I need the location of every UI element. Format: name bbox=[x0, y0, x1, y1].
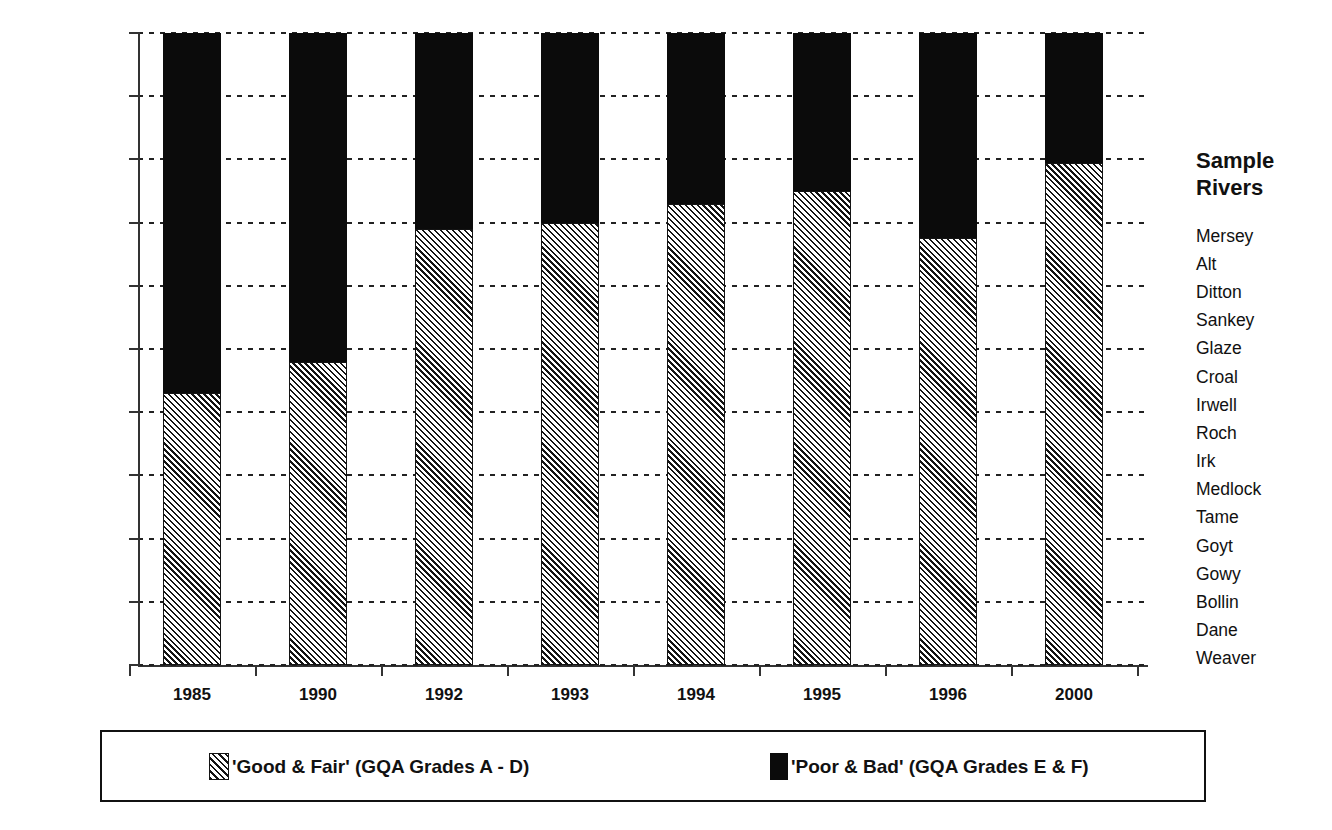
bar-segment-good-and-fair bbox=[163, 393, 221, 665]
sidebar-title: Sample Rivers bbox=[1196, 148, 1326, 202]
bar-segment-poor-and-bad bbox=[163, 33, 221, 393]
x-axis-label-1994: 1994 bbox=[641, 685, 751, 705]
x-axis-tick bbox=[381, 665, 383, 676]
river-list-item: Sankey bbox=[1196, 306, 1326, 334]
river-list-item: Medlock bbox=[1196, 475, 1326, 503]
bar-1994 bbox=[667, 33, 725, 665]
legend-label-poor-and-bad: 'Poor & Bad' (GQA Grades E & F) bbox=[791, 756, 1089, 778]
x-axis-label-2000: 2000 bbox=[1019, 685, 1129, 705]
river-list-item: Goyt bbox=[1196, 532, 1326, 560]
legend-item-poor-and-bad: 'Poor & Bad' (GQA Grades E & F) bbox=[770, 753, 1089, 780]
bar-segment-good-and-fair bbox=[667, 204, 725, 665]
bar-segment-poor-and-bad bbox=[793, 33, 851, 191]
river-list-item: Glaze bbox=[1196, 334, 1326, 362]
x-axis-tick bbox=[255, 665, 257, 676]
x-axis-tick bbox=[1011, 665, 1013, 676]
x-axis-tick bbox=[507, 665, 509, 676]
x-axis-tick bbox=[129, 665, 131, 676]
y-axis-tick bbox=[129, 411, 140, 413]
y-axis-tick bbox=[129, 285, 140, 287]
river-list-item: Dane bbox=[1196, 616, 1326, 644]
y-axis-tick bbox=[129, 32, 140, 34]
bar-1985 bbox=[163, 33, 221, 665]
legend-item-good-and-fair: 'Good & Fair' (GQA Grades A - D) bbox=[209, 753, 529, 780]
bar-segment-poor-and-bad bbox=[541, 33, 599, 223]
scanned-chart-page: % of River Length in Category 100%90%80%… bbox=[0, 0, 1332, 830]
y-axis-tick bbox=[129, 222, 140, 224]
bar-2000 bbox=[1045, 33, 1103, 665]
river-list-item: Mersey bbox=[1196, 222, 1326, 250]
bar-1995 bbox=[793, 33, 851, 665]
solid-black-swatch-icon bbox=[770, 753, 788, 780]
river-list-item: Irk bbox=[1196, 447, 1326, 475]
river-list-item: Irwell bbox=[1196, 391, 1326, 419]
hatch-swatch-icon bbox=[209, 753, 229, 780]
chart-plot-area: % of River Length in Category 100%90%80%… bbox=[138, 33, 1148, 665]
x-axis-label-1992: 1992 bbox=[389, 685, 499, 705]
bar-segment-poor-and-bad bbox=[289, 33, 347, 362]
y-axis-tick bbox=[129, 538, 140, 540]
y-axis-tick bbox=[129, 95, 140, 97]
chart-legend: 'Good & Fair' (GQA Grades A - D) 'Poor &… bbox=[100, 730, 1206, 802]
river-list-item: Bollin bbox=[1196, 588, 1326, 616]
x-axis-label-1996: 1996 bbox=[893, 685, 1003, 705]
bar-segment-poor-and-bad bbox=[415, 33, 473, 229]
y-axis-tick bbox=[129, 601, 140, 603]
bar-1990 bbox=[289, 33, 347, 665]
bar-segment-poor-and-bad bbox=[919, 33, 977, 238]
x-axis-label-1985: 1985 bbox=[137, 685, 247, 705]
sidebar-title-line-2: Rivers bbox=[1196, 175, 1326, 202]
bar-1992 bbox=[415, 33, 473, 665]
bar-segment-good-and-fair bbox=[793, 191, 851, 665]
legend-label-good-and-fair: 'Good & Fair' (GQA Grades A - D) bbox=[232, 756, 529, 778]
bar-1993 bbox=[541, 33, 599, 665]
bar-segment-good-and-fair bbox=[289, 362, 347, 665]
river-list-item: Tame bbox=[1196, 503, 1326, 531]
y-axis-tick bbox=[129, 158, 140, 160]
river-list-item: Gowy bbox=[1196, 560, 1326, 588]
bar-segment-good-and-fair bbox=[541, 223, 599, 665]
x-axis-tick bbox=[1137, 665, 1139, 676]
x-axis-label-1990: 1990 bbox=[263, 685, 373, 705]
x-axis-tick bbox=[885, 665, 887, 676]
x-axis-tick bbox=[759, 665, 761, 676]
sidebar-title-line-1: Sample bbox=[1196, 148, 1326, 175]
y-axis-tick bbox=[129, 348, 140, 350]
bar-segment-good-and-fair bbox=[415, 229, 473, 665]
x-axis-tick bbox=[633, 665, 635, 676]
river-list-item: Alt bbox=[1196, 250, 1326, 278]
river-list: MerseyAltDittonSankeyGlazeCroalIrwellRoc… bbox=[1196, 222, 1326, 673]
y-axis-tick bbox=[129, 474, 140, 476]
x-axis-label-1993: 1993 bbox=[515, 685, 625, 705]
x-axis-label-1995: 1995 bbox=[767, 685, 877, 705]
bar-segment-poor-and-bad bbox=[1045, 33, 1103, 163]
sample-rivers-sidebar: Sample Rivers MerseyAltDittonSankeyGlaze… bbox=[1196, 148, 1326, 672]
river-list-item: Ditton bbox=[1196, 278, 1326, 306]
bar-1996 bbox=[919, 33, 977, 665]
bar-segment-poor-and-bad bbox=[667, 33, 725, 204]
bar-segment-good-and-fair bbox=[919, 238, 977, 665]
bar-segment-good-and-fair bbox=[1045, 163, 1103, 665]
river-list-item: Croal bbox=[1196, 363, 1326, 391]
river-list-item: Roch bbox=[1196, 419, 1326, 447]
river-list-item: Weaver bbox=[1196, 644, 1326, 672]
